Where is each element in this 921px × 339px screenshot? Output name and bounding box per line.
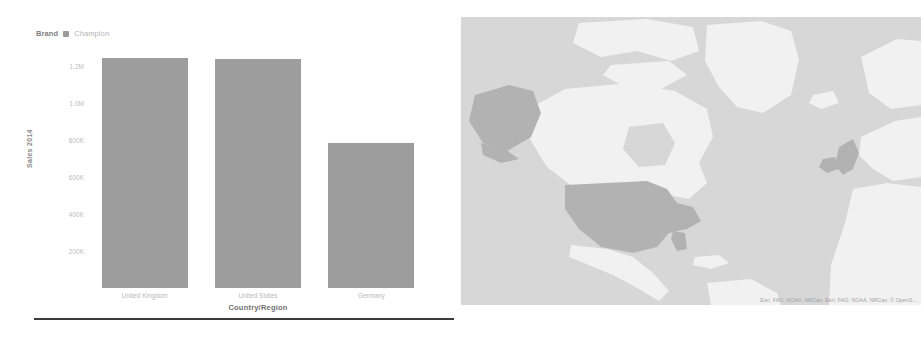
- map-haze-overlay: [461, 17, 921, 305]
- bar-united-kingdom[interactable]: [102, 58, 188, 288]
- map-attribution: Esri, FAO, NOAA, NRCan, Esri, FAO, NOAA,…: [760, 297, 917, 303]
- y-tick-label: 800K: [69, 137, 84, 144]
- bar-united-states[interactable]: [215, 59, 301, 288]
- bar-column: [88, 48, 201, 288]
- legend-entry-champion: Champion: [74, 29, 109, 38]
- bar-column: [315, 48, 428, 288]
- x-tick-label-united-kingdom: United Kingdom: [88, 292, 201, 299]
- bar-column: [201, 48, 314, 288]
- world-map-graphic[interactable]: [461, 17, 921, 305]
- y-tick-label: 400K: [69, 211, 84, 218]
- y-axis: 1.2M 1.0M 800K 600K 400K 200K: [48, 48, 86, 288]
- map-panel[interactable]: Esri, FAO, NOAA, NRCan, Esri, FAO, NOAA,…: [461, 17, 921, 305]
- bar-series: [88, 48, 428, 288]
- x-tick-label-germany: Germany: [315, 292, 428, 299]
- plot-area: [88, 48, 428, 288]
- y-tick-label: 1.0M: [70, 100, 84, 107]
- bar-chart-panel: Brand Champion Sales 2014 1.2M 1.0M 800K…: [0, 0, 460, 339]
- y-axis-title: Sales 2014: [26, 129, 33, 168]
- y-tick-label: 200K: [69, 248, 84, 255]
- legend-title: Brand: [36, 29, 58, 38]
- dashboard-screenshot: Brand Champion Sales 2014 1.2M 1.0M 800K…: [0, 0, 921, 339]
- panel-divider-rule: [34, 318, 454, 320]
- legend-color-swatch: [63, 31, 69, 37]
- chart-legend: Brand Champion: [36, 29, 109, 38]
- x-axis-title: Country/Region: [88, 303, 428, 312]
- y-tick-label: 600K: [69, 174, 84, 181]
- x-tick-label-united-states: United States: [201, 292, 314, 299]
- y-tick-label: 1.2M: [70, 63, 84, 70]
- bar-germany[interactable]: [328, 143, 414, 288]
- x-axis-labels: United Kingdom United States Germany: [88, 292, 428, 299]
